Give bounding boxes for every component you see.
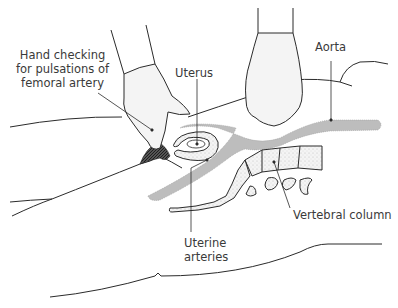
label-vertebral-column: Vertebral column	[293, 208, 392, 222]
right-hand-illustration	[246, 8, 303, 126]
label-uterus: Uterus	[175, 66, 213, 80]
label-hand-checking: Hand checking for pulsations of femoral …	[16, 48, 109, 90]
uterus-shape	[174, 132, 219, 161]
label-uterine-arteries: Uterine arteries	[184, 236, 228, 264]
label-aorta: Aorta	[315, 40, 346, 54]
